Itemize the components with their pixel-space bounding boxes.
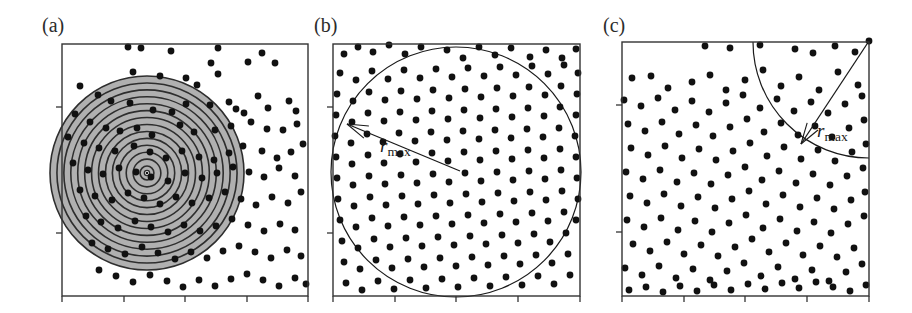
- data-point: [265, 105, 272, 112]
- data-point: [228, 123, 235, 130]
- data-point: [559, 188, 566, 195]
- data-point: [561, 62, 568, 69]
- data-point: [723, 100, 730, 107]
- data-point: [259, 148, 266, 155]
- data-point: [132, 218, 139, 225]
- data-point: [212, 127, 219, 134]
- data-point: [559, 55, 566, 62]
- data-point: [414, 180, 421, 187]
- data-point: [407, 277, 414, 284]
- data-point: [92, 193, 99, 200]
- data-point: [138, 45, 145, 52]
- data-point: [810, 171, 817, 178]
- data-point: [240, 143, 247, 150]
- data-point: [206, 195, 213, 202]
- data-point: [370, 49, 377, 56]
- data-point: [189, 200, 196, 207]
- data-point: [478, 94, 485, 101]
- data-point: [832, 43, 839, 50]
- data-point: [744, 116, 751, 123]
- data-point: [762, 286, 769, 293]
- data-point: [212, 283, 219, 290]
- data-point: [268, 255, 275, 262]
- data-point: [197, 228, 204, 235]
- data-point: [125, 190, 132, 197]
- data-point: [293, 108, 300, 115]
- data-point: [284, 247, 291, 254]
- data-point: [298, 253, 305, 260]
- data-point: [626, 287, 633, 294]
- data-point: [549, 260, 556, 267]
- data-point: [341, 51, 348, 58]
- data-point: [477, 157, 484, 164]
- data-point: [776, 168, 783, 175]
- data-point: [795, 132, 802, 139]
- data-point: [725, 172, 732, 179]
- data-point: [130, 69, 137, 76]
- data-point: [862, 189, 869, 196]
- data-point: [353, 224, 360, 231]
- data-point: [95, 92, 102, 99]
- data-point: [98, 219, 105, 226]
- data-point: [541, 155, 548, 162]
- data-point: [665, 85, 672, 92]
- data-point: [510, 177, 517, 184]
- data-point: [513, 72, 520, 79]
- data-point: [828, 230, 835, 237]
- data-point: [492, 52, 499, 59]
- data-point: [832, 158, 839, 165]
- data-point: [543, 197, 550, 204]
- data-point: [763, 201, 770, 208]
- data-point: [655, 95, 662, 102]
- panel-label-b: (b): [314, 14, 337, 37]
- data-point: [662, 143, 669, 150]
- data-point: [746, 188, 753, 195]
- data-point: [835, 69, 842, 76]
- data-point: [483, 241, 490, 248]
- data-point: [709, 229, 716, 236]
- data-point: [780, 192, 787, 199]
- data-point: [658, 215, 665, 222]
- data-point: [359, 287, 366, 294]
- data-point: [843, 269, 850, 276]
- data-point: [661, 191, 668, 198]
- data-point: [350, 98, 357, 105]
- data-point: [777, 216, 784, 223]
- data-point: [433, 66, 440, 73]
- data-point: [847, 288, 854, 295]
- data-point: [558, 83, 565, 90]
- data-point: [815, 147, 822, 154]
- data-point: [288, 149, 295, 156]
- data-point: [77, 83, 84, 90]
- data-point: [715, 253, 722, 260]
- data-point: [155, 250, 162, 257]
- data-point: [761, 129, 768, 136]
- data-point: [623, 169, 630, 176]
- data-point: [445, 158, 452, 165]
- data-point: [742, 164, 749, 171]
- data-point: [334, 175, 341, 182]
- data-point: [276, 283, 283, 290]
- data-point: [485, 262, 492, 269]
- data-point: [572, 133, 579, 140]
- data-point: [713, 157, 720, 164]
- data-point: [678, 203, 685, 210]
- data-point: [676, 131, 683, 138]
- data-point: [81, 140, 88, 147]
- data-point: [794, 228, 801, 235]
- data-point: [573, 154, 580, 161]
- data-point: [495, 190, 502, 197]
- data-point: [493, 106, 500, 113]
- data-point: [465, 212, 472, 219]
- data-point: [625, 121, 632, 128]
- data-point: [859, 261, 866, 268]
- data-point: [503, 274, 510, 281]
- data-point: [272, 60, 279, 67]
- data-point: [508, 135, 515, 142]
- data-point: [515, 240, 522, 247]
- data-point: [796, 74, 803, 81]
- data-point: [861, 213, 868, 220]
- data-point: [463, 191, 470, 198]
- data-point: [165, 178, 172, 185]
- data-point: [355, 245, 362, 252]
